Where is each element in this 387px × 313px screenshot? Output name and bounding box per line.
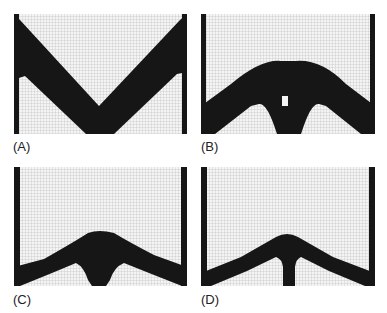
- topology-diagram-b: [201, 14, 375, 134]
- panel-a: [14, 14, 187, 134]
- panel-label-a: (A): [13, 139, 30, 154]
- panel-label-c: (C): [13, 292, 31, 307]
- panel-label-d: (D): [201, 292, 219, 307]
- panel-b: [201, 14, 375, 134]
- panel-c: [14, 167, 187, 286]
- panel-d: [201, 167, 375, 286]
- topology-diagram-c: [14, 167, 187, 286]
- panel-label-b: (B): [201, 139, 218, 154]
- topology-diagram-d: [201, 167, 375, 286]
- topology-diagram-a: [14, 14, 187, 134]
